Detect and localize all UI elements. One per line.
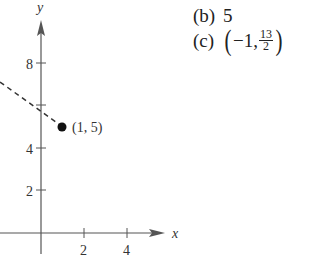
answer-b-key: (b) [193, 3, 223, 28]
x-tick-label-2: 2 [80, 243, 87, 258]
y-tick-label-2: 2 [26, 184, 33, 199]
answer-c-open-paren: ( [225, 27, 232, 52]
x-tick-label-4: 4 [123, 243, 130, 258]
answer-b: (b) 5 [193, 3, 284, 28]
x-axis-label: x [171, 226, 179, 241]
y-tick-label-8: 8 [26, 57, 33, 72]
dashed-line [0, 82, 60, 125]
answer-c-key: (c) [193, 28, 223, 53]
answer-c-close-paren: ) [275, 27, 282, 52]
y-tick-label-4: 4 [26, 142, 33, 157]
point-marker [58, 123, 67, 132]
fraction-denominator: 2 [263, 41, 269, 52]
answer-c: (c) ( −1, 13 2 ) [193, 28, 284, 53]
answers-block: (b) 5 (c) ( −1, 13 2 ) [193, 3, 284, 53]
point-label: (1, 5) [72, 120, 103, 136]
answer-c-fraction: 13 2 [259, 29, 273, 52]
y-axis-label: y [35, 0, 44, 15]
answer-c-x: −1, [233, 28, 258, 53]
